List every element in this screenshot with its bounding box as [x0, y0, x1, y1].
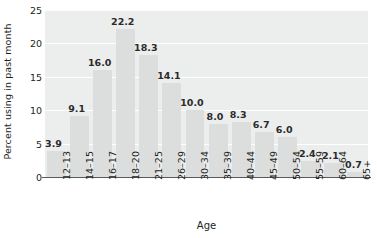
x-tick-cell: 45–49: [253, 179, 276, 217]
x-axis-title: Age: [45, 220, 368, 231]
bar-value-label: 6.0: [276, 124, 293, 135]
x-tick-label: 21–25: [153, 151, 164, 180]
bar-value-label: 16.0: [88, 57, 111, 68]
y-tick-label: 25: [16, 5, 42, 16]
bar-value-label: 10.0: [180, 97, 203, 108]
x-tick-cell: 50–54: [276, 179, 299, 217]
x-axis-tick-labels: 12–1314–1516–1718–2021–2526–2930–3435–39…: [45, 179, 368, 217]
x-tick-cell: 30–34: [183, 179, 206, 217]
bar-value-label: 6.7: [253, 119, 270, 130]
y-axis-title: Percent using in past month: [0, 0, 14, 182]
y-tick-label: 5: [16, 138, 42, 149]
y-tick-label: 0: [16, 172, 42, 183]
x-tick-label: 16–17: [107, 151, 118, 180]
bar-value-label: 8.3: [230, 109, 247, 120]
x-tick-label: 18–20: [130, 151, 141, 180]
bar-value-label: 8.0: [207, 111, 224, 122]
x-tick-cell: 12–13: [45, 179, 68, 217]
x-tick-label: 60–64: [337, 151, 348, 180]
bar-value-label: 3.9: [45, 138, 62, 149]
bar-chart-figure: Percent using in past month 0510152025 3…: [0, 0, 377, 238]
x-tick-label: 14–15: [84, 151, 95, 180]
x-tick-label: 26–29: [176, 151, 187, 180]
x-tick-label: 45–49: [268, 151, 279, 180]
bar-value-label: 9.1: [68, 103, 85, 114]
x-tick-label: 65+: [361, 160, 372, 180]
x-tick-cell: 21–25: [137, 179, 160, 217]
y-tick-label: 15: [16, 71, 42, 82]
x-tick-cell: 65+: [345, 179, 368, 217]
y-tick-label: 10: [16, 105, 42, 116]
x-tick-cell: 60–64: [322, 179, 345, 217]
x-tick-label: 35–39: [222, 151, 233, 180]
x-tick-label: 55–59: [314, 151, 325, 180]
x-tick-cell: 55–59: [299, 179, 322, 217]
y-tick-label: 20: [16, 38, 42, 49]
bar-slot: [345, 10, 368, 177]
x-tick-label: 40–44: [245, 151, 256, 180]
bar-value-label: 22.2: [111, 16, 134, 27]
x-tick-cell: 40–44: [230, 179, 253, 217]
x-tick-cell: 14–15: [68, 179, 91, 217]
x-tick-cell: 18–20: [114, 179, 137, 217]
y-axis-tick-labels: 0510152025: [16, 0, 42, 182]
bar-value-label: 18.3: [134, 42, 157, 53]
x-tick-cell: 26–29: [160, 179, 183, 217]
x-tick-cell: 35–39: [207, 179, 230, 217]
x-tick-label: 12–13: [61, 151, 72, 180]
x-tick-label: 30–34: [199, 151, 210, 180]
x-tick-label: 50–54: [291, 151, 302, 180]
y-axis-title-text: Percent using in past month: [2, 23, 13, 159]
x-tick-cell: 16–17: [91, 179, 114, 217]
bar-value-label: 14.1: [157, 70, 180, 81]
